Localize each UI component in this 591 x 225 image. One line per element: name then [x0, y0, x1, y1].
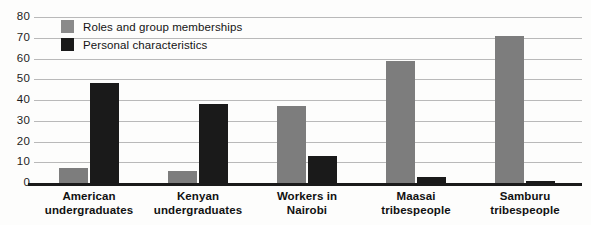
legend-swatch-roles: [61, 20, 74, 33]
x-axis-label: Maasaitribespeople: [362, 190, 470, 217]
bar-roles[interactable]: [168, 171, 197, 183]
x-axis-label-line: Workers in: [277, 190, 337, 202]
bar-roles[interactable]: [277, 106, 306, 183]
legend-label: Roles and group memberships: [83, 21, 242, 33]
y-axis: 80706050403020100: [0, 0, 30, 225]
y-axis-tick-label: 60: [2, 53, 30, 64]
chart-legend: Roles and group membershipsPersonal char…: [61, 18, 242, 54]
x-axis-label-line: undergraduates: [144, 204, 252, 218]
bar-roles[interactable]: [495, 36, 524, 183]
bar-chart: 80706050403020100 Americanundergraduates…: [0, 0, 591, 225]
y-axis-tick-label: 40: [2, 94, 30, 105]
y-axis-tick-label: 70: [2, 32, 30, 43]
legend-label: Personal characteristics: [83, 39, 207, 51]
x-axis-label-line: Maasai: [397, 190, 436, 202]
x-axis-label-line: tribespeople: [362, 204, 470, 218]
legend-item[interactable]: Personal characteristics: [61, 36, 242, 53]
bar-personal[interactable]: [308, 156, 337, 183]
bar-roles[interactable]: [386, 61, 415, 183]
x-axis-label: Workers inNairobi: [253, 190, 361, 217]
x-axis-label-line: Samburu: [500, 190, 551, 202]
y-axis-tick-label: 50: [2, 73, 30, 84]
bar-roles[interactable]: [59, 168, 88, 183]
x-axis-label-line: undergraduates: [35, 204, 143, 218]
y-axis-tick-label: 80: [2, 11, 30, 22]
legend-swatch-personal: [61, 38, 74, 51]
x-axis-label: Samburutribespeople: [471, 190, 579, 217]
y-axis-tick-label: 30: [2, 115, 30, 126]
legend-item[interactable]: Roles and group memberships: [61, 18, 242, 35]
x-axis-label-line: Kenyan: [177, 190, 219, 202]
bar-personal[interactable]: [199, 104, 228, 183]
x-axis-label-line: Nairobi: [253, 204, 361, 218]
x-axis-label-line: tribespeople: [471, 204, 579, 218]
y-axis-tick-label: 10: [2, 156, 30, 167]
y-axis-tick-label: 20: [2, 136, 30, 147]
y-axis-tick-label: 0: [2, 177, 30, 188]
x-axis-label: Kenyanundergraduates: [144, 190, 252, 217]
bar-personal[interactable]: [90, 83, 119, 183]
x-axis-label: Americanundergraduates: [35, 190, 143, 217]
x-axis-line: [28, 183, 582, 186]
x-axis-label-line: American: [62, 190, 115, 202]
